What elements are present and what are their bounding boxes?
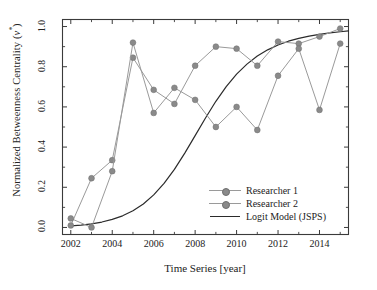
plot-area <box>0 0 377 290</box>
legend-item-researcher-2: Researcher 2 <box>208 197 326 210</box>
legend: Researcher 1 Researcher 2 Logit Model (J… <box>208 184 326 223</box>
legend-label: Logit Model (JSPS) <box>242 211 326 222</box>
legend-item-logit-model: Logit Model (JSPS) <box>208 210 326 223</box>
legend-label: Researcher 1 <box>242 185 298 196</box>
legend-item-researcher-1: Researcher 1 <box>208 184 326 197</box>
legend-key-line-marker-icon <box>208 184 242 197</box>
figure: Normalized Betweenness Centrality (v*) T… <box>0 0 377 290</box>
legend-label: Researcher 2 <box>242 198 298 209</box>
legend-key-line-icon <box>208 210 242 223</box>
legend-key-line-marker-icon <box>208 197 242 210</box>
